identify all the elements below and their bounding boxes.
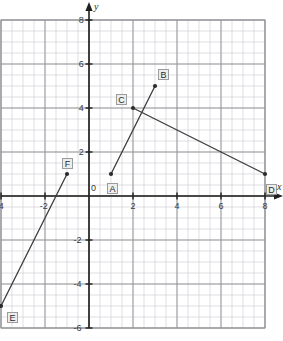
- graph-canvas: [0, 0, 283, 341]
- y-tick-4: 4: [79, 104, 84, 113]
- x-tick-6: 6: [218, 202, 223, 211]
- y-tick-2: 2: [79, 148, 84, 157]
- point-label-b: B: [158, 69, 169, 80]
- point-label-d: D: [266, 184, 277, 195]
- coordinate-plane-figure: ABCDEF -4-2024688642-2-4-6 x y: [0, 0, 283, 341]
- point-label-c: C: [116, 94, 127, 105]
- x-tick--2: -2: [40, 202, 48, 211]
- x-tick-8: 8: [262, 202, 267, 211]
- x-tick-2: 2: [130, 202, 135, 211]
- x-axis-label: x: [277, 182, 281, 192]
- x-tick-4: 4: [174, 202, 179, 211]
- point-label-f: F: [62, 158, 73, 169]
- y-tick--4: -4: [74, 280, 82, 289]
- x-tick-0: 0: [91, 184, 96, 193]
- axes: [1, 2, 283, 328]
- y-axis-label: y: [94, 2, 98, 12]
- y-tick--2: -2: [74, 236, 82, 245]
- y-tick-6: 6: [79, 60, 84, 69]
- x-tick--4: -4: [0, 202, 4, 211]
- point-label-a: A: [107, 183, 118, 194]
- y-tick--6: -6: [74, 324, 82, 333]
- y-tick-8: 8: [79, 16, 84, 25]
- point-label-e: E: [7, 312, 18, 323]
